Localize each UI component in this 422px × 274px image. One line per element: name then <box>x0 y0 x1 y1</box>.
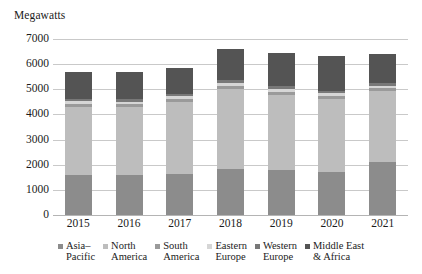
bar-segment <box>318 172 345 215</box>
legend-label: Middle East& Africa <box>313 240 364 262</box>
legend-item[interactable]: Middle East& Africa <box>305 240 364 262</box>
bar-segment <box>268 95 295 170</box>
bar-segment <box>65 175 92 215</box>
x-tick-2016: 2016 <box>118 218 141 230</box>
bar-2016[interactable] <box>116 72 143 215</box>
x-tick-2020: 2020 <box>320 218 343 230</box>
legend-item[interactable]: WesternEurope <box>255 240 297 262</box>
bar-segment <box>217 169 244 215</box>
bar-segment <box>65 72 92 100</box>
bar-segment <box>116 107 143 175</box>
x-tick-2021: 2021 <box>371 218 394 230</box>
y-tick-4000: 4000 <box>26 109 49 121</box>
legend-label: Asia–Pacific <box>66 240 95 262</box>
bar-2020[interactable] <box>318 56 345 215</box>
x-tick-2019: 2019 <box>270 218 293 230</box>
bar-series-group <box>53 39 408 215</box>
x-tick-2015: 2015 <box>67 218 90 230</box>
x-axis-tick-labels: 2015201620172018201920202021 <box>53 218 408 234</box>
chart-legend: Asia–PacificNorthAmericaSouthAmericaEast… <box>0 240 422 272</box>
y-tick-3000: 3000 <box>26 134 49 146</box>
legend-label: NorthAmerica <box>111 240 147 262</box>
bar-segment <box>166 174 193 215</box>
y-tick-5000: 5000 <box>26 84 49 96</box>
bar-segment <box>217 89 244 169</box>
x-tick-2018: 2018 <box>219 218 242 230</box>
legend-item[interactable]: NorthAmerica <box>103 240 147 262</box>
bar-2019[interactable] <box>268 53 295 215</box>
y-tick-7000: 7000 <box>26 33 49 45</box>
x-tick-2017: 2017 <box>168 218 191 230</box>
bar-segment <box>217 49 244 81</box>
bar-segment <box>166 68 193 93</box>
bar-segment <box>268 170 295 215</box>
legend-swatch-icon <box>155 244 160 249</box>
chart-container: Megawatts 70006000500040003000200010000 … <box>0 0 422 274</box>
legend-swatch-icon <box>305 244 310 249</box>
legend-swatch-icon <box>58 244 63 249</box>
legend-label: SouthAmerica <box>163 240 199 262</box>
bar-2021[interactable] <box>369 54 396 215</box>
bar-2015[interactable] <box>65 72 92 215</box>
legend-item[interactable]: SouthAmerica <box>155 240 199 262</box>
legend-swatch-icon <box>103 244 108 249</box>
bar-segment <box>65 107 92 175</box>
bar-segment <box>369 91 396 161</box>
legend-label: EasternEurope <box>215 240 247 262</box>
legend-swatch-icon <box>255 244 260 249</box>
bar-segment <box>318 99 345 172</box>
y-tick-1000: 1000 <box>26 184 49 196</box>
y-tick-0: 0 <box>43 209 49 221</box>
bar-segment <box>166 102 193 174</box>
bar-segment <box>116 175 143 215</box>
bar-segment <box>318 56 345 91</box>
legend-item[interactable]: Asia–Pacific <box>58 240 95 262</box>
bar-2017[interactable] <box>166 68 193 215</box>
gridline-0 <box>53 215 408 216</box>
bar-segment <box>116 72 143 100</box>
legend-item[interactable]: EasternEurope <box>207 240 247 262</box>
bar-segment <box>268 53 295 86</box>
bar-segment <box>369 54 396 83</box>
bar-2018[interactable] <box>217 49 244 215</box>
legend-swatch-icon <box>207 244 212 249</box>
y-axis-tick-labels: 70006000500040003000200010000 <box>0 39 49 215</box>
y-tick-2000: 2000 <box>26 159 49 171</box>
y-tick-6000: 6000 <box>26 58 49 70</box>
bar-segment <box>369 162 396 215</box>
y-axis-title: Megawatts <box>14 9 65 21</box>
plot-area <box>53 39 408 215</box>
legend-label: WesternEurope <box>263 240 297 262</box>
